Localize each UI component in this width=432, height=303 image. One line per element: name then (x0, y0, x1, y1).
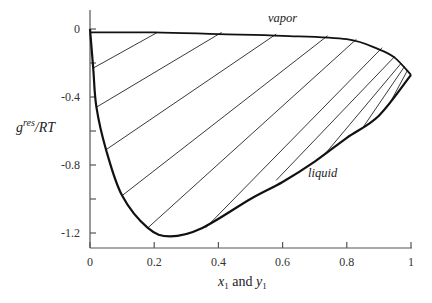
x-tick-label: 0.2 (147, 255, 162, 269)
x-tick-label: 0.4 (211, 255, 226, 269)
tie-line (148, 39, 357, 228)
liquid-label: liquid (308, 166, 338, 180)
phase-curves (90, 29, 411, 236)
y-tick-label: 0 (74, 22, 80, 36)
y-tick-label: -1.2 (61, 226, 80, 240)
chart-labels: vapor liquid gres/RT x1 and y1 (16, 11, 338, 291)
x-tick-label: 0.8 (339, 255, 354, 269)
tie-line (363, 66, 405, 127)
y-tick-label: -0.4 (61, 90, 80, 104)
tie-line (106, 34, 276, 150)
x-tick-label: 1 (408, 255, 414, 269)
y-axis-label: gres/RT (16, 117, 56, 135)
x-tick-label: 0.6 (275, 255, 290, 269)
chart: 00.20.40.60.810-0.4-0.8-1.2 vapor liquid… (0, 0, 432, 303)
tie-line (122, 36, 327, 196)
tie-line (324, 63, 401, 155)
vapor-curve (90, 32, 411, 75)
x-tick-label: 0 (87, 255, 93, 269)
vapor-label: vapor (268, 11, 297, 25)
liquid-curve (90, 29, 411, 236)
axes: 00.20.40.60.810-0.4-0.8-1.2 (61, 10, 414, 269)
tie-line (93, 32, 157, 68)
tie-line (206, 48, 383, 228)
y-tick-label: -0.8 (61, 158, 80, 172)
tie-line (96, 32, 221, 107)
x-axis-label: x1 and y1 (217, 274, 267, 291)
